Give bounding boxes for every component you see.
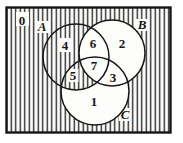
region-label-6: 6 (90, 36, 97, 51)
set-label-c: C (121, 107, 130, 122)
region-label-5: 5 (70, 68, 77, 83)
region-label-1: 1 (91, 94, 98, 109)
region-label-3: 3 (110, 70, 117, 85)
set-label-a: A (37, 19, 47, 34)
venn-diagram: 0 4 6 2 7 5 3 1 A B C (0, 0, 183, 143)
region-label-2: 2 (119, 36, 126, 51)
region-label-7: 7 (91, 58, 98, 73)
region-label-4: 4 (62, 38, 69, 53)
region-label-0: 0 (19, 13, 26, 28)
figure-canvas: 0 4 6 2 7 5 3 1 A B C (0, 0, 183, 143)
set-label-b: B (137, 17, 147, 32)
